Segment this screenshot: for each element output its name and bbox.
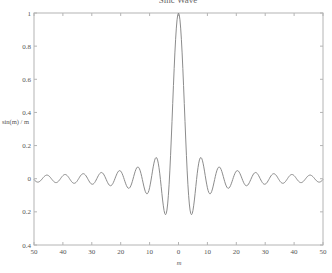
x-tick-label: 10	[146, 248, 154, 256]
x-tick-label: 30	[88, 248, 96, 256]
x-tick-label: 20	[117, 248, 125, 256]
y-tick-label: 0	[28, 175, 32, 183]
y-tick-label: 0.6	[22, 76, 31, 84]
x-tick-label: 50	[320, 248, 328, 256]
x-tick-label: 0	[177, 248, 181, 256]
y-axis-label: sin(m) / m	[2, 118, 29, 126]
plot-axes: 5040302010010203040500.40.200.20.40.60.8…	[22, 10, 327, 257]
x-tick-label: 20	[233, 248, 241, 256]
plot-frame	[34, 13, 323, 245]
x-tick-label: 40	[59, 248, 67, 256]
y-tick-label: 0.4	[22, 242, 31, 250]
x-tick-label: 10	[204, 248, 212, 256]
y-tick-label: 1	[28, 10, 32, 18]
y-tick-label: 0.2	[22, 142, 31, 150]
chart-title: Sinc Wave	[159, 0, 197, 5]
y-tick-label: 0.4	[22, 109, 31, 117]
x-tick-label: 30	[262, 248, 270, 256]
sinc-curve	[34, 13, 323, 215]
sinc-chart: Sinc Wave 5040302010010203040500.40.200.…	[0, 0, 332, 273]
x-tick-label: 40	[291, 248, 299, 256]
x-tick-label: 50	[31, 248, 39, 256]
x-axis-label: m	[177, 259, 182, 266]
y-tick-label: 0.8	[22, 43, 31, 51]
y-tick-label: 0.2	[22, 208, 31, 216]
